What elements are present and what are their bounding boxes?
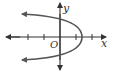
coordinate-plane: y x O [0, 0, 114, 73]
parabola-figure: y x O [0, 0, 114, 73]
origin-label: O [50, 39, 58, 50]
x-axis-label: x [101, 37, 108, 50]
y-axis-label: y [62, 2, 70, 15]
